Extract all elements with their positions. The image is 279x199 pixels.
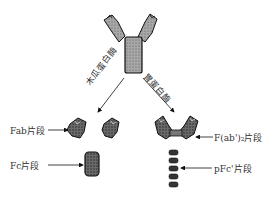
- fab2-fragment: [155, 116, 198, 139]
- pfc-label: pFc'片段: [214, 162, 252, 175]
- pfc-fragments: [169, 150, 178, 187]
- fab-fragment-right: [102, 118, 119, 138]
- intact-antibody: [104, 14, 157, 73]
- fab-label: Fab片段: [10, 124, 45, 137]
- fc-label: Fc片段: [10, 159, 39, 172]
- fab2-label: F(ab')₂片段: [214, 131, 262, 144]
- papain-arrow: [98, 78, 124, 112]
- fab-fragment-left: [67, 118, 86, 138]
- fc-fragment: [85, 152, 99, 176]
